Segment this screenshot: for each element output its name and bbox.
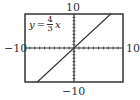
equation-lhs: y	[29, 19, 35, 30]
equation-fraction: 4 3	[47, 16, 53, 33]
y-min-label: −10	[62, 86, 85, 97]
equation-equals: =	[37, 19, 45, 30]
fraction-numerator: 4	[48, 16, 53, 24]
fraction-denominator: 3	[48, 25, 53, 33]
y-max-label: 10	[66, 2, 80, 13]
equation-variable: x	[55, 19, 61, 30]
x-min-label: −10	[4, 43, 27, 54]
equation-label: y = 4 3 x	[29, 16, 61, 33]
x-max-label: 10	[126, 43, 140, 54]
